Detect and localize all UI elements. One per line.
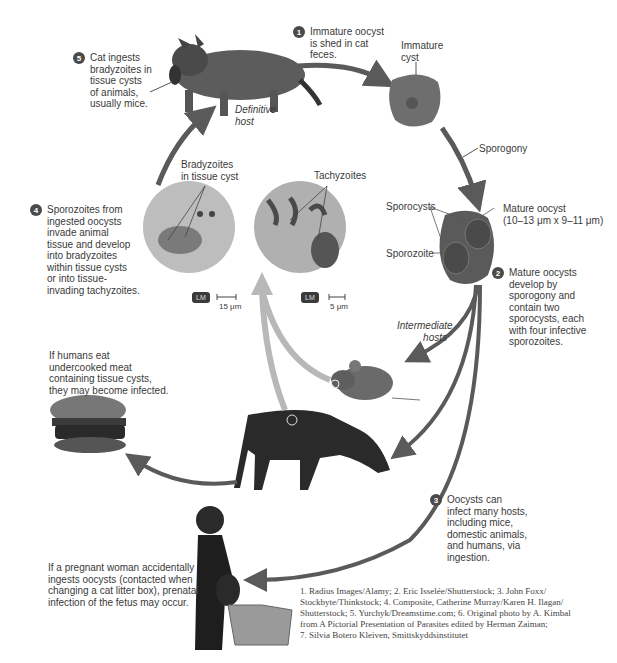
bradyzoite-micrograph — [143, 181, 235, 273]
step-5-text: Cat ingests bradyzoites in tissue cysts … — [90, 52, 152, 110]
immature-cyst-image — [389, 62, 440, 127]
step-4-text: Sporozoites from ingested oocysts invade… — [47, 204, 140, 296]
mature-oocyst-label: Mature oocyst (10–13 μm x 9–11 μm) — [503, 203, 603, 226]
mature-oocyst-image — [430, 207, 494, 284]
step-3-text: Oocysts can infect many hosts, including… — [447, 494, 528, 563]
step-number-badge: 3 — [430, 494, 442, 506]
intermediate-hosts-label: Intermediate hosts — [397, 320, 447, 343]
scale-bar-5um — [329, 294, 345, 300]
step-5: 5 Cat ingests bradyzoites in tissue cyst… — [73, 52, 152, 110]
step-number-badge: 5 — [73, 52, 85, 64]
bradyzoites-label: Bradyzoites in tissue cyst — [181, 159, 238, 182]
step-4: 4 Sporozoites from ingested oocysts inva… — [30, 204, 140, 296]
scale-bar-15um — [217, 294, 236, 300]
humans-meat-note: If humans eat undercooked meat containin… — [49, 350, 169, 396]
tachyzoite-micrograph — [254, 181, 346, 273]
step-number-badge: 1 — [293, 26, 305, 38]
pregnant-woman-note: If a pregnant woman accidentally ingests… — [48, 562, 199, 608]
hamburger-image — [50, 395, 126, 453]
sporocysts-label: Sporocysts — [386, 201, 435, 213]
step-2: 2 Mature oocysts develop by sporogony an… — [492, 267, 586, 348]
scale-label-5um: 5 μm — [330, 301, 348, 313]
mouse-image — [331, 360, 420, 400]
tachyzoites-label: Tachyzoites — [314, 170, 366, 182]
sporozoite-label: Sporozoite — [386, 248, 434, 260]
cow-image — [234, 410, 390, 490]
step-number-badge: 2 — [492, 267, 504, 279]
step-3: 3 Oocysts can infect many hosts, includi… — [430, 494, 528, 563]
definitive-host-label: Definitive host — [235, 104, 276, 127]
step-1: 1 Immature oocyst is shed in cat feces. — [293, 26, 384, 61]
lm-badge: LM — [301, 292, 319, 303]
step-1-text: Immature oocyst is shed in cat feces. — [310, 26, 384, 61]
scale-label-15um: 15 μm — [219, 301, 241, 313]
sporogony-label: Sporogony — [479, 143, 527, 155]
immature-cyst-label: Immature cyst — [401, 40, 443, 63]
step-2-text: Mature oocysts develop by sporogony and … — [509, 267, 586, 348]
lm-badge: LM — [192, 292, 210, 303]
photo-credits: 1. Radius Images/Alamy; 2. Eric Isselée/… — [300, 586, 571, 641]
step-number-badge: 4 — [30, 204, 42, 216]
